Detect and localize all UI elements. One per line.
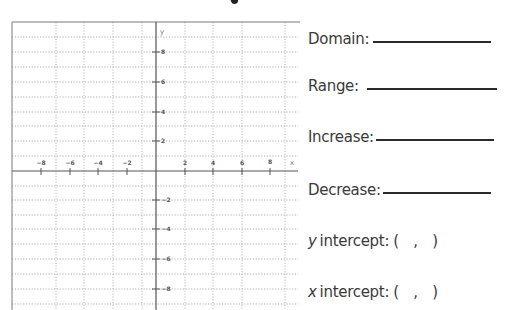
y-intercept-field[interactable]: y intercept: ( , ) xyxy=(308,232,438,250)
y-intercept-label: intercept: xyxy=(320,232,390,250)
x-tick-label: 4 xyxy=(211,160,215,166)
domain-blank[interactable] xyxy=(373,40,491,43)
y-tick-label: 6 xyxy=(161,79,165,85)
x-tick-label: −4 xyxy=(93,160,102,166)
domain-field[interactable]: Domain: xyxy=(308,30,491,48)
decrease-field[interactable]: Decrease: xyxy=(308,181,491,199)
y-tick-label: 2 xyxy=(161,138,165,144)
grid-lines xyxy=(0,0,300,310)
y-tick-label: −8 xyxy=(161,286,170,292)
range-blank[interactable] xyxy=(367,87,497,90)
x-variable: x xyxy=(308,283,317,301)
y-tick-label: 4 xyxy=(161,109,165,115)
x-tick-label: 2 xyxy=(183,160,187,166)
y-tick-label: −4 xyxy=(161,226,170,232)
range-field[interactable]: Range: xyxy=(308,77,497,95)
x-tick-label: 8 xyxy=(268,159,272,165)
x-intercept-coordinates[interactable]: ( , ) xyxy=(393,283,438,301)
y-tick-label: −6 xyxy=(161,256,170,262)
y-variable: y xyxy=(308,232,317,250)
x-axis-label: x xyxy=(290,160,294,167)
x-tick-label: 6 xyxy=(240,160,244,166)
coordinate-grid: y x −8 −6 −4 −2 2 4 6 8 8 6 4 2 −2 −4 −6… xyxy=(0,0,300,310)
x-tick-label: −6 xyxy=(65,160,74,166)
increase-label: Increase: xyxy=(308,128,374,146)
decrease-blank[interactable] xyxy=(383,191,491,194)
decrease-label: Decrease: xyxy=(308,181,381,199)
increase-blank[interactable] xyxy=(376,138,494,141)
x-intercept-field[interactable]: x intercept: ( , ) xyxy=(308,283,438,301)
y-axis-label: y xyxy=(160,29,164,36)
answer-fields: Domain: Range: Increase: Decrease: y int… xyxy=(308,0,518,310)
x-tick-label: −8 xyxy=(36,160,45,166)
y-tick-label: 8 xyxy=(161,49,165,55)
y-tick-label: −2 xyxy=(161,197,170,203)
domain-label: Domain: xyxy=(308,30,369,48)
range-label: Range: xyxy=(308,77,359,95)
x-tick-label: −2 xyxy=(122,160,131,166)
x-intercept-label: intercept: xyxy=(320,283,390,301)
y-intercept-coordinates[interactable]: ( , ) xyxy=(393,232,438,250)
increase-field[interactable]: Increase: xyxy=(308,128,494,146)
